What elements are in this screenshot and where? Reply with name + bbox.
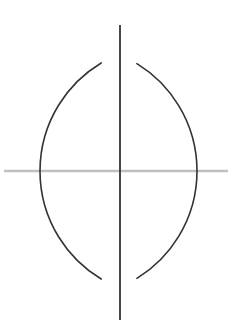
geometric-construction-figure — [0, 0, 232, 333]
construction-canvas — [0, 0, 232, 333]
